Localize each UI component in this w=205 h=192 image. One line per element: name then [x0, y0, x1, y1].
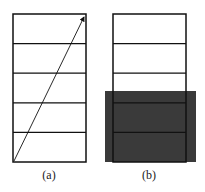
panel-a-arrow [14, 17, 84, 161]
panel-b-shaded-region [105, 91, 196, 162]
panel-b [105, 14, 196, 162]
diagram-canvas [0, 0, 205, 192]
panel-a-label: (a) [34, 168, 64, 183]
panel-a [13, 14, 86, 162]
panel-b-label: (b) [134, 168, 164, 183]
